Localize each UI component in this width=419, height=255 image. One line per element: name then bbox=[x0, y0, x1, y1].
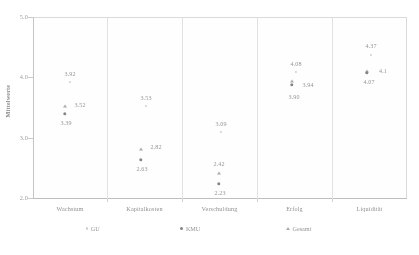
x-category-label-wachstum: Wachstum bbox=[33, 205, 107, 212]
data-label-gu-wachstum: 3.92 bbox=[64, 71, 75, 77]
y-tick-label: 3.0 bbox=[2, 135, 28, 141]
y-axis-line bbox=[33, 17, 34, 199]
data-label-kmu-verschuldung: 2.23 bbox=[214, 190, 225, 196]
legend-item-gu[interactable]: GU bbox=[86, 225, 100, 232]
x-tick bbox=[182, 199, 183, 202]
legend-item-kmu[interactable]: KMU bbox=[180, 225, 200, 232]
category-separator bbox=[107, 17, 108, 199]
x-axis-line bbox=[33, 198, 407, 199]
legend-label-kmu: KMU bbox=[186, 225, 200, 232]
y-tick bbox=[28, 138, 33, 139]
data-label-gesamt-verschuldung: 2.42 bbox=[213, 161, 224, 167]
legend-marker-triangle-icon bbox=[286, 227, 290, 230]
data-label-kmu-erfolg: 3.90 bbox=[288, 94, 299, 100]
data-point-gesamt-erfolg bbox=[290, 80, 294, 83]
category-separator bbox=[332, 17, 333, 199]
x-category-label-kapitalkosten: Kapitalkosten bbox=[107, 205, 182, 212]
data-point-gesamt-verschuldung bbox=[217, 172, 221, 175]
category-separator bbox=[257, 17, 258, 199]
data-label-kmu-wachstum: 3.39 bbox=[60, 120, 71, 126]
x-tick bbox=[257, 199, 258, 202]
legend-marker-circle-icon bbox=[180, 227, 183, 230]
chart-legend: GU KMU Gesamt bbox=[33, 225, 407, 239]
x-category-label-erfolg: Erfolg bbox=[257, 205, 332, 212]
data-label-gu-verschuldung: 3.09 bbox=[215, 121, 226, 127]
data-label-gesamt-liquiditaet: 4.1 bbox=[379, 68, 387, 74]
legend-marker-dot-icon bbox=[86, 227, 88, 229]
data-label-gu-liquiditaet: 4.37 bbox=[365, 43, 376, 49]
category-separator bbox=[182, 17, 183, 199]
x-category-label-verschuldung: Verschuldung bbox=[182, 205, 257, 212]
legend-label-gesamt: Gesamt bbox=[293, 225, 312, 232]
chart-container: 5.0 4.0 3.0 2.0 Mittelwerte Wachstum Kap… bbox=[0, 0, 419, 255]
data-label-gu-kapitalkosten: 3.53 bbox=[140, 95, 151, 101]
y-axis-title: Mittelwerte bbox=[5, 73, 11, 129]
y-tick-label: 2.0 bbox=[2, 195, 28, 201]
y-tick bbox=[28, 77, 33, 78]
y-tick-label: 5.0 bbox=[2, 14, 28, 20]
data-label-gesamt-kapitalkosten: 2.82 bbox=[150, 144, 161, 150]
data-label-kmu-liquiditaet: 4.07 bbox=[363, 79, 374, 85]
y-tick bbox=[28, 17, 33, 18]
data-label-kmu-kapitalkosten: 2.63 bbox=[136, 166, 147, 172]
legend-item-gesamt[interactable]: Gesamt bbox=[286, 225, 311, 232]
data-point-gesamt-wachstum bbox=[63, 105, 67, 108]
y-tick bbox=[28, 198, 33, 199]
x-tick bbox=[107, 199, 108, 202]
data-label-gesamt-erfolg: 3.94 bbox=[302, 82, 313, 88]
x-tick bbox=[332, 199, 333, 202]
data-point-gesamt-kapitalkosten bbox=[139, 148, 143, 151]
data-label-gu-erfolg: 4.08 bbox=[290, 61, 301, 67]
legend-label-gu: GU bbox=[91, 225, 100, 232]
x-category-label-liquiditaet: Liquidität bbox=[332, 205, 407, 212]
data-label-gesamt-wachstum: 3.52 bbox=[74, 102, 85, 108]
